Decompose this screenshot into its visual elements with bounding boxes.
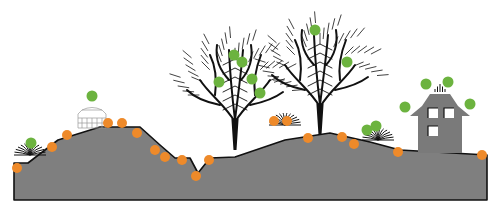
green-marker-dot: [247, 74, 258, 85]
green-marker-dot: [214, 77, 225, 88]
orange-marker-dot: [303, 133, 313, 143]
green-marker-dot: [443, 77, 454, 88]
green-marker-dot: [400, 102, 411, 113]
orange-marker-dot: [477, 150, 487, 160]
orange-marker-dot: [337, 132, 347, 142]
bare-tree-left-icon: [170, 27, 303, 150]
green-marker-dot: [371, 121, 382, 132]
orange-marker-dot: [47, 142, 57, 152]
orange-marker-dot: [117, 118, 127, 128]
orange-marker-dot: [282, 116, 292, 126]
green-marker-dot: [465, 99, 476, 110]
orange-marker-dot: [160, 152, 170, 162]
landscape-scene: [0, 0, 500, 212]
terrain-ground: [14, 127, 487, 200]
green-marker-dot: [342, 57, 353, 68]
green-marker-dot: [421, 79, 432, 90]
orange-marker-dot: [62, 130, 72, 140]
orange-marker-dot: [191, 171, 201, 181]
terrain: [14, 127, 487, 200]
orange-marker-dot: [103, 118, 113, 128]
orange-marker-dot: [150, 145, 160, 155]
gazebo-icon: [78, 108, 106, 129]
orange-marker-dot: [12, 163, 22, 173]
orange-marker-dot: [349, 139, 359, 149]
orange-marker-dot: [204, 155, 214, 165]
orange-marker-dot: [132, 128, 142, 138]
orange-marker-dot: [177, 155, 187, 165]
house-icon: [410, 84, 470, 153]
green-marker-dot: [310, 25, 321, 36]
green-marker-dot: [87, 91, 98, 102]
green-marker-dot: [255, 88, 266, 99]
landscape-diagram: [0, 0, 500, 212]
green-marker-dot: [237, 57, 248, 68]
orange-marker-dot: [393, 147, 403, 157]
green-marker-dot: [26, 138, 37, 149]
orange-marker-dot: [269, 116, 279, 126]
